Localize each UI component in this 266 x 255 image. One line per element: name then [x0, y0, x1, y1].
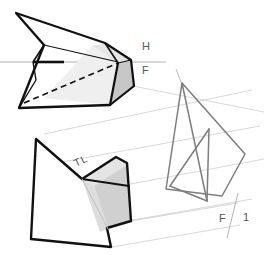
- fold-label-h: H: [142, 40, 150, 52]
- top-view-outline-left: [16, 13, 44, 108]
- auxiliary-view-edge-peak-to-base-right: [207, 129, 209, 201]
- f1-fold-line-group: [227, 193, 238, 238]
- projection-line-2: [62, 126, 260, 162]
- auxiliary-view-fold-tick-icon: [176, 69, 181, 82]
- auxiliary-view-group: [166, 83, 245, 201]
- auxiliary-view-edge-base-left-to-peak: [170, 129, 209, 186]
- drawing-sheet: TL H F F 1: [0, 0, 266, 255]
- projection-line-5: [112, 225, 240, 247]
- projection-line-top: [133, 86, 264, 112]
- top-view-edge-lower-long: [19, 105, 110, 108]
- fold-label-f: F: [142, 64, 149, 76]
- top-view-group: [16, 13, 134, 108]
- aux-fold-label-1: 1: [243, 211, 250, 223]
- technical-drawing-canvas: TL H F F 1: [0, 0, 266, 255]
- f1-fold-line: [227, 193, 238, 238]
- front-view-group: TL: [31, 139, 131, 247]
- true-length-label: TL: [72, 152, 90, 169]
- auxiliary-view-edge-apex-to-base-right: [182, 83, 207, 201]
- aux-fold-label-f: F: [219, 212, 226, 224]
